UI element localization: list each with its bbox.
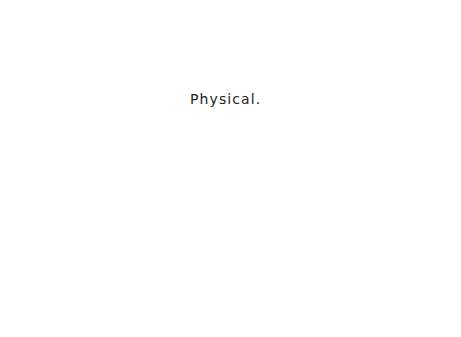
heading-text: Physical. xyxy=(190,89,261,109)
